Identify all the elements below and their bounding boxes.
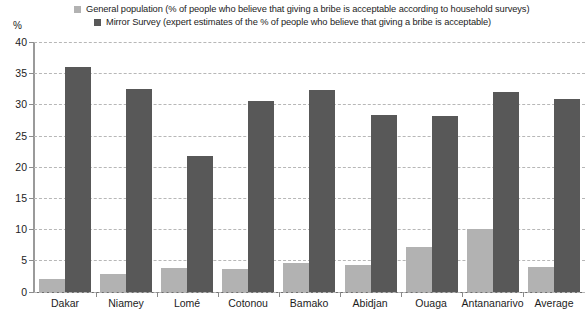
- bar-group: [462, 42, 523, 292]
- bar-groups: [35, 42, 585, 292]
- y-axis-tick-mark: [29, 198, 34, 199]
- square-swatch-icon: [94, 19, 101, 26]
- x-axis-group-separator: [462, 292, 463, 297]
- bar-group: [218, 42, 279, 292]
- gridline: [34, 292, 585, 293]
- x-axis-group-separator: [279, 292, 280, 297]
- chart-legend: General population (% of people who beli…: [0, 3, 586, 29]
- bar-general-population[interactable]: [528, 267, 554, 291]
- y-axis-tick-mark: [29, 73, 34, 74]
- y-axis-tick-label: 15: [3, 192, 27, 204]
- y-axis-tick-mark: [29, 42, 34, 43]
- y-axis-tick-label: 10: [3, 223, 27, 235]
- legend-entry-general-population: General population (% of people who beli…: [0, 3, 586, 16]
- bar-mirror-survey[interactable]: [371, 115, 397, 292]
- y-axis-unit-label: %: [13, 20, 22, 31]
- bar-mirror-survey[interactable]: [187, 156, 213, 291]
- square-swatch-icon: [74, 6, 81, 13]
- bar-general-population[interactable]: [161, 268, 187, 291]
- bar-group: [35, 42, 96, 292]
- y-axis-tick-mark: [29, 292, 34, 293]
- y-axis-tick-label: 25: [3, 130, 27, 142]
- x-axis-tick-label: Lomé: [157, 297, 218, 309]
- bar-mirror-survey[interactable]: [126, 89, 152, 292]
- x-axis-tick-label: Antananarivo: [462, 297, 524, 309]
- legend-label: Mirror Survey (expert estimates of the %…: [106, 16, 491, 29]
- y-axis-tick-mark: [29, 260, 34, 261]
- bar-group: [401, 42, 462, 292]
- x-axis-group-separator: [157, 292, 158, 297]
- y-axis-tick-mark: [29, 136, 34, 137]
- x-axis-tick-label: Average: [524, 297, 585, 309]
- legend-entry-mirror-survey: Mirror Survey (expert estimates of the %…: [0, 16, 586, 29]
- x-axis-group-separator: [523, 292, 524, 297]
- bar-mirror-survey[interactable]: [248, 101, 274, 291]
- bar-general-population[interactable]: [467, 229, 493, 291]
- y-axis-tick-label: 40: [3, 36, 27, 48]
- bar-mirror-survey[interactable]: [554, 99, 580, 291]
- x-axis-tick-label: Dakar: [35, 297, 96, 309]
- y-axis-tick-mark: [29, 104, 34, 105]
- bar-general-population[interactable]: [283, 263, 309, 291]
- legend-label: General population (% of people who beli…: [86, 3, 529, 16]
- bar-group: [279, 42, 340, 292]
- x-axis-group-separator: [218, 292, 219, 297]
- chart-plot-area: 4035302520151050: [33, 42, 585, 293]
- x-axis-tick-label: Cotonou: [218, 297, 279, 309]
- bar-general-population[interactable]: [222, 269, 248, 291]
- y-axis-tick-mark: [29, 229, 34, 230]
- bar-group: [96, 42, 157, 292]
- bar-mirror-survey[interactable]: [432, 116, 458, 291]
- x-axis-tick-label: Bamako: [279, 297, 340, 309]
- bar-group: [157, 42, 218, 292]
- x-axis-group-separator: [340, 292, 341, 297]
- bar-mirror-survey[interactable]: [309, 90, 335, 291]
- y-axis-tick-label: 30: [3, 98, 27, 110]
- x-axis-tick-label: Niamey: [96, 297, 157, 309]
- x-axis-labels: DakarNiameyLoméCotonouBamakoAbidjanOuaga…: [35, 297, 585, 309]
- bar-mirror-survey[interactable]: [493, 92, 519, 292]
- y-axis-tick-label: 5: [3, 254, 27, 266]
- y-axis-tick-label: 20: [3, 161, 27, 173]
- bar-group: [340, 42, 401, 292]
- bar-general-population[interactable]: [39, 279, 65, 291]
- bar-group: [523, 42, 584, 292]
- y-axis-tick-mark: [29, 167, 34, 168]
- y-axis-tick-label: 35: [3, 67, 27, 79]
- x-axis-tick-label: Ouaga: [401, 297, 462, 309]
- x-axis-tick-label: Abidjan: [340, 297, 401, 309]
- bar-general-population[interactable]: [100, 274, 126, 291]
- y-axis-tick-label: 0: [3, 286, 27, 298]
- bar-general-population[interactable]: [345, 265, 371, 292]
- bar-general-population[interactable]: [406, 247, 432, 292]
- bar-mirror-survey[interactable]: [65, 67, 91, 292]
- x-axis-group-separator: [96, 292, 97, 297]
- x-axis-group-separator: [401, 292, 402, 297]
